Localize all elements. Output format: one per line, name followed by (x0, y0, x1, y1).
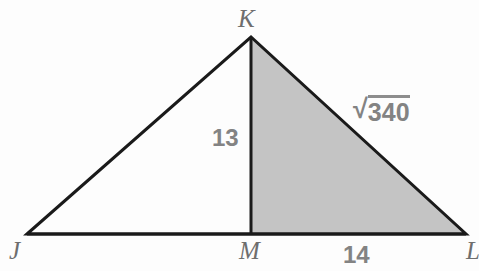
length-label-km: 13 (212, 126, 239, 150)
triangle-diagram-svg (0, 0, 479, 271)
radical-sign-icon: √ (353, 96, 368, 123)
vertex-label-m: M (239, 238, 260, 263)
length-label-ml: 14 (343, 243, 370, 267)
radicand-value: 340 (368, 95, 410, 125)
vertex-label-j: J (9, 238, 20, 263)
geometry-figure: K J M L 13 14 √ 340 (0, 0, 479, 271)
vertex-label-k: K (238, 6, 255, 31)
vertex-label-l: L (466, 238, 479, 263)
length-label-kl: √ 340 (353, 95, 410, 125)
